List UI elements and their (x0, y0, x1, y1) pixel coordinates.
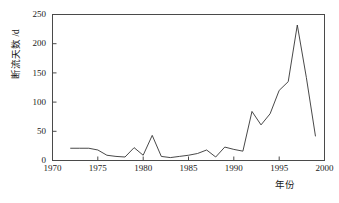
x-tick-label-1990: 1990 (214, 163, 254, 173)
chart-figure: 0 50 100 150 200 250 1970 1975 1980 1985… (0, 0, 339, 203)
x-tick-label-2000: 2000 (305, 163, 339, 173)
x-tick-label-1985: 1985 (169, 163, 209, 173)
y-axis-title: 断流天数 /d (9, 4, 23, 104)
x-tick-label-1975: 1975 (78, 163, 118, 173)
x-tick-label-1980: 1980 (123, 163, 163, 173)
y-tick-label-50: 50 (20, 126, 46, 136)
y-axis-ticks (53, 15, 57, 161)
x-axis-ticks (53, 157, 325, 161)
plot-frame (53, 15, 325, 161)
y-tick-label-200: 200 (20, 38, 46, 48)
y-tick-label-100: 100 (20, 97, 46, 107)
y-tick-label-150: 150 (20, 68, 46, 78)
x-tick-label-1970: 1970 (33, 163, 73, 173)
plot-border (53, 15, 325, 161)
data-series-line (71, 25, 316, 158)
x-axis-title: 年份 (275, 177, 295, 191)
y-tick-label-250: 250 (20, 9, 46, 19)
x-tick-label-1995: 1995 (259, 163, 299, 173)
